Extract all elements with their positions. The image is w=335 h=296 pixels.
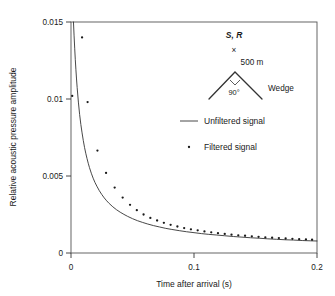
plot-frame <box>71 22 317 253</box>
data-point <box>257 236 259 238</box>
data-point <box>183 227 185 229</box>
legend-dot-swatch <box>188 146 190 148</box>
cross-marker-icon: × <box>232 46 237 55</box>
x-tick-label-2: 0.2 <box>311 263 323 272</box>
data-point <box>305 238 307 240</box>
acoustic-pressure-chart: 0.015 0.01 0.005 0 0 0.1 0.2 Time after … <box>0 0 335 296</box>
y-tick-labels: 0.015 0.01 0.005 0 <box>43 18 64 258</box>
inset-object-label: Wedge <box>268 84 294 93</box>
data-point <box>291 238 293 240</box>
data-point <box>271 237 273 239</box>
data-point <box>81 36 83 38</box>
data-point <box>197 229 199 231</box>
data-point <box>129 204 131 206</box>
x-tick-labels: 0 0.1 0.2 <box>69 263 323 272</box>
x-tick-label-1: 0.1 <box>188 263 200 272</box>
y-tick-label-1: 0.005 <box>43 172 64 181</box>
data-point <box>210 231 212 233</box>
data-point <box>105 172 107 174</box>
inset-height-label: 500 m <box>241 58 264 67</box>
y-axis-ticks <box>66 22 71 253</box>
data-point <box>122 196 124 198</box>
data-point <box>114 186 116 188</box>
y-tick-label-3: 0.015 <box>43 18 64 27</box>
data-point <box>169 224 171 226</box>
data-point <box>298 238 300 240</box>
data-point <box>264 236 266 238</box>
data-point <box>71 95 73 97</box>
data-point <box>244 235 246 237</box>
inset-angle-label: 90° <box>228 88 239 97</box>
data-point <box>156 219 158 221</box>
x-axis-ticks <box>71 253 317 258</box>
data-point <box>284 237 286 239</box>
y-tick-label-2: 0.01 <box>47 95 63 104</box>
data-point <box>149 217 151 219</box>
data-point <box>142 213 144 215</box>
legend-label-filtered: Filtered signal <box>204 142 257 152</box>
chart-figure: 0.015 0.01 0.005 0 0 0.1 0.2 Time after … <box>0 0 335 296</box>
data-point <box>176 225 178 227</box>
data-point <box>278 237 280 239</box>
y-tick-label-0: 0 <box>58 249 63 258</box>
data-point <box>203 230 205 232</box>
x-axis-title: Time after arrival (s) <box>156 279 232 289</box>
data-point <box>96 149 98 151</box>
data-point <box>86 101 88 103</box>
data-point <box>230 234 232 236</box>
data-point <box>237 234 239 236</box>
inset-source-receiver-label: S, R <box>226 30 243 40</box>
data-point <box>251 235 253 237</box>
legend-label-unfiltered: Unfiltered signal <box>204 116 265 126</box>
data-point <box>217 232 219 234</box>
data-point <box>190 228 192 230</box>
data-point <box>311 239 313 241</box>
data-point <box>136 209 138 211</box>
data-point <box>224 233 226 235</box>
data-point <box>163 222 165 224</box>
x-tick-label-0: 0 <box>69 263 74 272</box>
y-axis-title: Relative acoustic pressure amplitude <box>8 67 18 206</box>
